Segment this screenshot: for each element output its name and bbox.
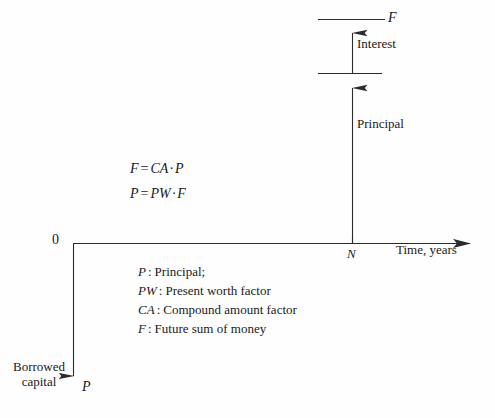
legend-separator: :: [146, 321, 155, 336]
legend-definition: Compound amount factor: [163, 302, 297, 317]
legend-separator: :: [146, 264, 155, 279]
equation-term: F: [177, 186, 186, 201]
legend-symbol: PW: [138, 283, 157, 298]
legend-symbol: P: [138, 264, 146, 279]
equation-factor: CA: [150, 161, 168, 176]
legend-definition: Principal;: [155, 264, 206, 279]
equation-operator: =: [139, 161, 151, 176]
diagram-lines: [0, 0, 495, 418]
x-tick-label-n: N: [347, 247, 356, 262]
borrowed-capital-label: Borrowed capital: [8, 360, 70, 389]
equation-term: P: [175, 161, 184, 176]
equation-block: F=CA·P P=PW·F: [130, 161, 186, 202]
equation-operator: =: [139, 186, 151, 201]
legend-definition: Present worth factor: [165, 283, 270, 298]
equation-row: P=PW·F: [130, 186, 186, 202]
legend-separator: :: [155, 302, 164, 317]
legend-symbol: CA: [138, 302, 155, 317]
origin-label: 0: [52, 232, 59, 248]
borrowed-capital-symbol: P: [82, 379, 91, 395]
cash-flow-diagram: 0 N Time, years F Interest Principal Bor…: [0, 0, 495, 418]
equation-factor: PW: [150, 186, 170, 201]
legend-item: F:Future sum of money: [138, 321, 297, 337]
legend-item: PW:Present worth factor: [138, 283, 297, 299]
future-sum-label: F: [388, 10, 397, 26]
x-axis-label: Time, years: [396, 243, 457, 258]
equation-row: F=CA·P: [130, 161, 186, 177]
equation-lhs: F: [130, 161, 139, 176]
symbol-legend: P:Principal; PW:Present worth factor CA:…: [138, 264, 297, 337]
legend-item: CA:Compound amount factor: [138, 302, 297, 318]
interest-label: Interest: [357, 37, 396, 52]
equation-lhs: P: [130, 186, 139, 201]
legend-definition: Future sum of money: [155, 321, 267, 336]
legend-item: P:Principal;: [138, 264, 297, 280]
principal-label: Principal: [357, 117, 404, 132]
legend-symbol: F: [138, 321, 146, 336]
